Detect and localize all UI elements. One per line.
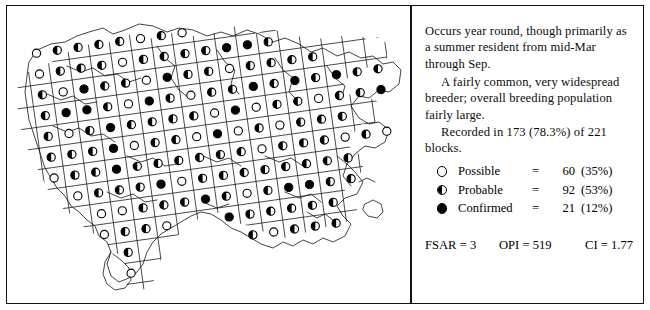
- atlas-block-confirmed: [109, 144, 117, 152]
- atlas-block-possible: [383, 127, 391, 135]
- atlas-block-confirmed: [231, 106, 239, 114]
- legend-percent-confirmed: (12%): [581, 199, 612, 218]
- stat-opi: OPI = 519: [499, 237, 552, 253]
- atlas-block-probable: [181, 198, 189, 206]
- atlas-block-confirmed: [145, 97, 153, 105]
- atlas-block-probable: [89, 147, 97, 155]
- atlas-block-possible: [32, 49, 40, 57]
- atlas-block-confirmed: [62, 109, 70, 117]
- atlas-block-confirmed: [249, 82, 257, 90]
- atlas-block-probable: [249, 231, 257, 239]
- atlas-block-probable: [101, 82, 109, 90]
- atlas-block-probable: [77, 64, 85, 72]
- atlas-block-probable: [38, 91, 46, 99]
- atlas-block-probable: [344, 154, 352, 162]
- atlas-block-possible: [163, 222, 171, 230]
- paragraph-occurrence: Occurs year round, though primarily as a…: [425, 23, 633, 72]
- atlas-block-probable: [353, 68, 361, 76]
- atlas-block-confirmed: [213, 130, 221, 138]
- possible-circle-icon: [437, 166, 447, 176]
- atlas-block-possible: [59, 88, 67, 96]
- atlas-block-probable: [267, 59, 275, 67]
- atlas-block-probable: [362, 130, 370, 138]
- atlas-block-confirmed: [223, 44, 231, 52]
- atlas-block-probable: [142, 225, 150, 233]
- atlas-block-probable: [374, 65, 382, 73]
- atlas-block-possible: [187, 91, 195, 99]
- atlas-block-confirmed: [80, 85, 88, 93]
- atlas-block-confirmed: [83, 106, 91, 114]
- atlas-block-probable: [127, 121, 135, 129]
- legend-percent-possible: (35%): [581, 162, 612, 181]
- atlas-block-probable: [240, 168, 248, 176]
- legend-count-probable: 92: [553, 181, 575, 200]
- atlas-block-probable: [92, 168, 100, 176]
- distribution-map-panel: [7, 6, 410, 303]
- atlas-block-confirmed: [107, 124, 115, 132]
- paragraph-abundance: A fairly common, very widespread breeder…: [425, 74, 633, 123]
- legend-count-confirmed: 21: [553, 199, 575, 218]
- atlas-block-possible: [65, 129, 73, 137]
- atlas-block-possible: [124, 100, 132, 108]
- atlas-block-probable: [246, 62, 254, 70]
- breeding-status-legend: Possible = 60 (35%) Probable = 92 (53%) …: [425, 162, 635, 218]
- probable-half-circle-icon: [437, 185, 447, 195]
- atlas-block-probable: [41, 112, 49, 120]
- atlas-block-probable: [312, 74, 320, 82]
- atlas-block-probable: [44, 132, 52, 140]
- atlas-block-possible: [270, 228, 278, 236]
- atlas-block-probable: [288, 56, 296, 64]
- atlas-block-probable: [95, 189, 103, 197]
- atlas-block-probable: [124, 248, 132, 256]
- atlas-block-probable: [169, 115, 177, 123]
- legend-equals-probable: =: [532, 181, 539, 200]
- atlas-block-probable: [116, 37, 124, 45]
- atlas-block-probable: [98, 61, 106, 69]
- atlas-block-probable: [184, 70, 192, 78]
- legend-label-probable: Probable: [458, 181, 503, 200]
- atlas-block-possible: [258, 145, 266, 153]
- atlas-block-possible: [341, 133, 349, 141]
- distribution-map: [7, 6, 410, 303]
- atlas-block-probable: [219, 171, 227, 179]
- atlas-block-probable: [294, 97, 302, 105]
- atlas-block-probable: [332, 219, 340, 227]
- atlas-block-possible: [100, 230, 108, 238]
- atlas-block-possible: [127, 269, 135, 277]
- atlas-block-possible: [315, 94, 323, 102]
- atlas-block-confirmed: [112, 165, 120, 173]
- legend-equals-confirmed: =: [532, 199, 539, 218]
- atlas-block-confirmed: [332, 71, 340, 79]
- atlas-block-probable: [148, 118, 156, 126]
- legend-label-confirmed: Confirmed: [458, 199, 513, 218]
- atlas-block-possible: [142, 76, 150, 84]
- atlas-block-probable: [139, 55, 147, 63]
- atlas-block-probable: [68, 150, 76, 158]
- atlas-block-probable: [290, 225, 298, 233]
- atlas-block-confirmed: [243, 41, 251, 49]
- atlas-block-probable: [311, 222, 319, 230]
- atlas-block-probable: [222, 192, 230, 200]
- atlas-block-probable: [53, 46, 61, 54]
- legend-equals-possible: =: [532, 162, 539, 181]
- atlas-block-probable: [338, 112, 346, 120]
- atlas-block-probable: [323, 157, 331, 165]
- legend-row-probable: Probable = 92 (53%): [425, 181, 635, 200]
- atlas-block-probable: [205, 67, 213, 75]
- atlas-block-possible: [50, 174, 58, 182]
- atlas-block-probable: [104, 103, 112, 111]
- atlas-block-possible: [193, 133, 201, 141]
- atlas-block-probable: [86, 127, 94, 135]
- atlas-block-probable: [56, 67, 64, 75]
- atlas-block-probable: [190, 112, 198, 120]
- atlas-block-probable: [151, 139, 159, 147]
- atlas-block-probable: [297, 118, 305, 126]
- atlas-block-confirmed: [157, 180, 165, 188]
- atlas-block-confirmed: [201, 195, 209, 203]
- atlas-species-account-page: Occurs year round, though primarily as a…: [0, 0, 650, 310]
- stat-fsar: FSAR = 3: [425, 237, 476, 253]
- atlas-block-probable: [300, 139, 308, 147]
- atlas-block-probable: [302, 160, 310, 168]
- atlas-block-possible: [178, 29, 186, 37]
- atlas-block-confirmed: [291, 76, 299, 84]
